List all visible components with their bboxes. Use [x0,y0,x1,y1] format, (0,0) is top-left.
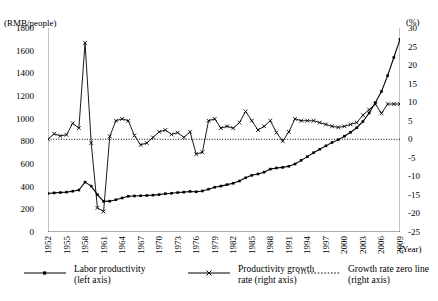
labor-productivity-marker [281,166,284,169]
legend-symbol-2 [296,268,342,278]
labor-productivity-marker [78,189,81,192]
labor-productivity-marker [220,185,223,188]
x-axis-tick-1982: 1982 [228,236,238,254]
labor-productivity-marker [374,102,377,105]
left-axis-tick-0: 0 [30,227,35,237]
labor-productivity-marker [362,120,365,123]
growth-rate-marker [244,110,248,114]
growth-rate-marker [256,128,260,132]
labor-productivity-marker [257,173,260,176]
labor-productivity-marker [238,180,241,183]
labor-productivity-marker [318,148,321,151]
chart-figure: (RMB/people) (%) (Year) 1800160014001200… [0,0,438,301]
right-axis-tick-30: 30 [408,23,417,33]
labor-productivity-marker [300,159,303,162]
growth-rate-marker [287,130,291,134]
x-axis-tick-1976: 1976 [191,236,201,254]
right-axis-tick-10: 10 [408,97,417,107]
right-axis-tick-5: 5 [408,116,413,126]
labor-productivity-marker [84,181,87,184]
labor-productivity-marker [90,185,93,188]
growth-rate-marker [361,113,365,117]
legend-label-line1: Labor productivity [74,264,200,275]
labor-productivity-marker [53,192,56,195]
labor-productivity-marker [399,38,400,41]
labor-productivity-marker [164,192,167,195]
legend-label-line2: (left axis) [74,275,200,286]
labor-productivity-marker [232,182,235,185]
labor-productivity-marker [201,190,204,193]
x-axis-tick-1988: 1988 [265,236,275,254]
labor-productivity-marker [152,194,155,197]
growth-rate-marker [281,139,285,143]
left-axis-tick-800: 800 [21,136,35,146]
labor-productivity-marker [386,74,389,77]
legend-label-line2: (right axis) [348,275,438,286]
growth-rate-marker [52,132,56,136]
labor-productivity-marker [65,191,68,194]
labor-productivity-marker [269,168,272,171]
labor-productivity-marker [368,112,371,115]
x-axis-tick-1967: 1967 [136,236,146,254]
growth-rate-marker [380,111,384,115]
labor-productivity-marker [226,183,229,186]
labor-productivity-marker [108,200,111,203]
growth-rate-marker [250,119,254,123]
x-axis-tick-1955: 1955 [62,236,72,254]
labor-productivity-marker [146,194,149,197]
growth-rate-marker [71,121,75,125]
labor-productivity-marker [294,163,297,166]
labor-productivity-marker [170,192,173,195]
right-axis-tick-25: 25 [408,42,417,52]
labor-productivity-marker [71,190,74,193]
growth-rate-marker [238,121,242,125]
labor-productivity-marker [263,171,266,174]
legend-label-line1: Growth rate zero line [348,264,438,275]
left-axis-tick-1200: 1200 [16,91,34,101]
labor-productivity-marker [393,56,396,59]
left-axis-tick-1400: 1400 [16,68,34,78]
x-axis-tick-2000: 2000 [339,236,349,254]
labor-productivity-marker [325,145,328,148]
legend-square-marker-icon [43,271,46,274]
labor-productivity-marker [306,155,309,158]
labor-productivity-marker [48,192,49,195]
left-axis-tick-1800: 1800 [16,23,34,33]
labor-productivity-marker [176,191,179,194]
x-axis-tick-2003: 2003 [358,236,368,254]
x-axis-tick-1985: 1985 [247,236,257,254]
labor-productivity-marker [337,138,340,141]
labor-productivity-marker [349,131,352,134]
growth-rate-marker [268,119,272,123]
labor-productivity-marker [121,197,124,200]
chart-legend: Labor productivity(left axis)Productivit… [0,264,438,301]
x-axis-tick-1991: 1991 [284,236,294,254]
growth-rate-marker [133,134,137,138]
right-axis-tick--15: -15 [408,190,420,200]
labor-productivity-marker [380,90,383,93]
right-axis-tick--25: -25 [408,227,420,237]
right-axis-tick-15: 15 [408,79,417,89]
growth-rate-marker [262,124,266,128]
plot-svg [48,28,400,232]
growth-rate-marker [182,136,186,140]
labor-productivity-marker [183,191,186,194]
right-axis-tick--5: -5 [408,153,416,163]
labor-productivity-marker [288,165,291,168]
legend-symbol-1 [186,268,232,278]
labor-productivity-marker [59,191,62,194]
labor-productivity-marker [207,188,210,191]
x-axis-tick-1961: 1961 [99,236,109,254]
labor-productivity-marker [355,126,358,129]
right-axis-tick-0: 0 [408,134,413,144]
left-axis-tick-200: 200 [21,204,35,214]
right-axis-tick-20: 20 [408,60,417,70]
right-axis-tick--20: -20 [408,208,420,218]
labor-productivity-line [48,39,400,201]
labor-productivity-marker [139,194,142,197]
right-axis-tick--10: -10 [408,171,420,181]
labor-productivity-marker [115,198,118,201]
left-axis-tick-400: 400 [21,182,35,192]
labor-productivity-marker [158,193,161,196]
legend-item-0: Labor productivity(left axis) [74,264,200,286]
